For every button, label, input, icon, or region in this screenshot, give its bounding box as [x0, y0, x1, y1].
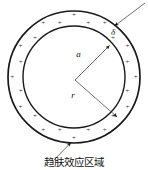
charge-plus-icon: + — [86, 126, 90, 134]
charge-plus-icon: + — [19, 58, 23, 66]
charge-plus-icon: + — [58, 19, 62, 27]
charge-plus-icon: + — [19, 42, 23, 50]
charge-plus-icon: + — [33, 34, 37, 42]
charge-plus-icon: + — [10, 73, 14, 81]
radius-r-label: r — [71, 90, 75, 100]
charge-plus-icon: + — [33, 112, 37, 120]
charge-plus-icon: + — [72, 11, 76, 19]
outer-circle — [8, 11, 140, 143]
charge-plus-icon: + — [41, 126, 45, 134]
charge-plus-icon: + — [125, 42, 129, 50]
charge-plus-icon: + — [125, 103, 129, 111]
charge-plus-icon: + — [19, 87, 23, 95]
charge-plus-icon: + — [19, 103, 23, 111]
charge-plus-icon: + — [58, 126, 62, 134]
charge-plus-icon: + — [86, 19, 90, 27]
charge-plus-icon: + — [111, 112, 115, 120]
charge-plus-icon: + — [134, 73, 138, 81]
delta-label: δ — [111, 27, 116, 37]
figure-canvas: ++++++++++++++++++++++++ δ a r — [0, 0, 148, 170]
charge-plus-icon: + — [41, 19, 45, 27]
inner-circle — [23, 26, 125, 128]
radius-r-arrow — [75, 80, 117, 117]
charge-plus-icon: + — [103, 19, 107, 27]
charge-plus-icon: + — [125, 58, 129, 66]
annulus-charge-marks: ++++++++++++++++++++++++ — [10, 11, 137, 142]
radius-a-label: a — [76, 49, 81, 59]
charge-plus-icon: + — [72, 134, 76, 142]
delta-callout-arrow — [115, 3, 146, 26]
charge-plus-icon: + — [103, 126, 107, 134]
charge-plus-icon: + — [125, 87, 129, 95]
figure-caption: 趋肤效应区域 — [0, 154, 148, 169]
skin-effect-figure: ++++++++++++++++++++++++ δ a r 趋肤效应区域 — [0, 0, 148, 170]
